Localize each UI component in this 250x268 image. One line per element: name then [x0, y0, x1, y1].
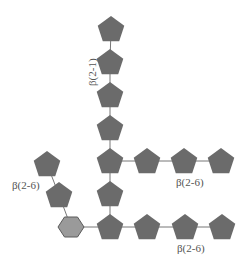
pentagon-fructose-node — [209, 214, 236, 239]
monosaccharide-shapes — [34, 16, 236, 239]
label-middle-branch-linkage: β(2-6) — [176, 176, 204, 189]
pentagon-fructose-node — [97, 148, 124, 173]
hexagon-glucose-node — [58, 217, 84, 237]
pentagon-fructose-node — [172, 214, 199, 239]
linkage-lines — [47, 29, 222, 227]
label-main-chain-linkage: β(2-1) — [86, 58, 99, 86]
label-bottom-branch-linkage: β(2-6) — [177, 242, 205, 255]
pentagon-fructose-node — [171, 148, 198, 173]
label-left-branch-linkage: β(2-6) — [12, 179, 40, 192]
pentagon-fructose-node — [97, 214, 124, 239]
pentagon-fructose-node — [97, 115, 124, 140]
pentagon-fructose-node — [208, 148, 235, 173]
pentagon-fructose-node — [34, 151, 61, 176]
glycan-diagram: β(2-1) β(2-6) β(2-6) β(2-6) — [0, 0, 250, 268]
pentagon-fructose-node — [98, 16, 125, 41]
pentagon-fructose-node — [46, 182, 73, 207]
pentagon-fructose-node — [97, 181, 124, 206]
pentagon-fructose-node — [97, 49, 124, 74]
pentagon-fructose-node — [134, 148, 161, 173]
pentagon-fructose-node — [134, 214, 161, 239]
pentagon-fructose-node — [97, 82, 124, 107]
